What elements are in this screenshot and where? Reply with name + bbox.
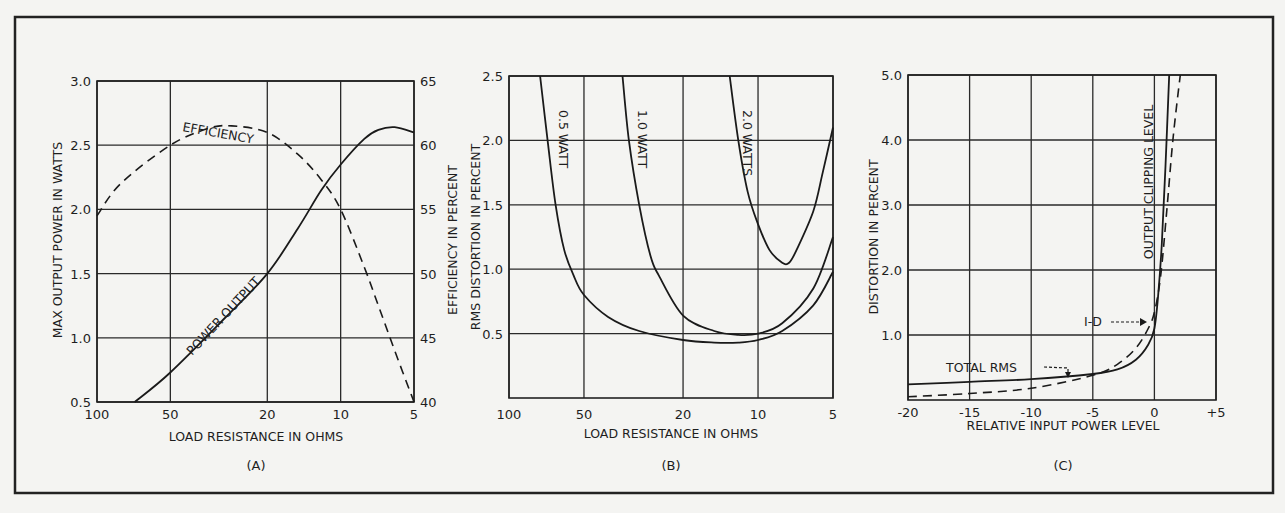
power-output-curve — [135, 127, 414, 402]
y-tick: 2.0 — [70, 202, 91, 217]
panel-b-x-ticks: 1005020105 — [497, 407, 838, 422]
id-label: I-D — [1084, 314, 1102, 329]
two-watt-label: 2.0 WATTS — [740, 110, 755, 176]
panel-a-ylabel-right: EFFICIENCY IN PERCENT — [445, 165, 460, 315]
y-tick: 1.5 — [482, 198, 503, 213]
y-tick-right: 55 — [420, 202, 437, 217]
y-tick: 3.0 — [70, 74, 91, 89]
panel-a-x-ticks: 1005020105 — [85, 407, 419, 422]
total-rms-label: TOTAL RMS — [945, 360, 1017, 375]
panel-c-ylabel: DISTORTION IN PERCENT — [866, 159, 881, 314]
panel-b-ylabel: RMS DISTORTION IN PERCENT — [468, 143, 483, 330]
x-tick: 50 — [162, 407, 179, 422]
id-arrowhead — [1140, 318, 1147, 326]
panel-b-y-ticks: 0.51.01.52.02.5 — [482, 69, 503, 342]
panel-a-ylabel: MAX OUTPUT POWER IN WATTS — [50, 142, 65, 338]
panel-c-grid — [908, 75, 1216, 400]
y-tick: 0.5 — [482, 327, 503, 342]
y-tick: 1.0 — [70, 331, 91, 346]
x-tick: 5 — [410, 407, 418, 422]
total-rms-curve — [908, 75, 1169, 384]
total-rms-arrow — [1044, 367, 1068, 375]
y-tick-right: 65 — [420, 74, 437, 89]
panel-a-label: (A) — [246, 458, 265, 473]
panel-a-y-ticks: 0.51.01.52.02.53.0 — [70, 74, 91, 410]
panel-b-label: (B) — [661, 458, 680, 473]
y-tick: 1.0 — [881, 328, 902, 343]
output-clipping-level-label: OUTPUT CLIPPING LEVEL — [1141, 105, 1156, 259]
panel-a-plot-frame — [97, 81, 414, 402]
x-tick: 100 — [497, 407, 522, 422]
y-tick: 3.0 — [881, 198, 902, 213]
y-tick-right: 45 — [420, 331, 437, 346]
one-watt-label: 1.0 WATT — [635, 110, 650, 169]
panel-a-grid — [97, 81, 414, 402]
y-tick: 4.0 — [881, 133, 902, 148]
y-tick-right: 50 — [420, 267, 437, 282]
half-watt-label: 0.5 WATT — [556, 110, 571, 169]
y-tick-right: 60 — [420, 138, 437, 153]
panel-a-xlabel: LOAD RESISTANCE IN OHMS — [169, 429, 344, 444]
y-tick: 2.0 — [482, 133, 503, 148]
y-tick: 2.0 — [881, 263, 902, 278]
x-tick: 50 — [576, 407, 593, 422]
panel-c-xlabel: RELATIVE INPUT POWER LEVEL — [966, 418, 1159, 433]
panel-b-xlabel: LOAD RESISTANCE IN OHMS — [584, 426, 759, 441]
panel-a-y-ticks-right: 404550556065 — [420, 74, 437, 410]
panel-c-label: (C) — [1053, 458, 1072, 473]
y-tick: 2.5 — [482, 69, 503, 84]
panel-c-plot-frame — [908, 75, 1216, 400]
panel-b: 0.51.01.52.02.5 1005020105 RMS DISTORTIO… — [468, 69, 837, 473]
x-tick: 5 — [829, 407, 837, 422]
y-tick: 1.5 — [70, 267, 91, 282]
x-tick: 10 — [332, 407, 349, 422]
x-tick: -20 — [897, 405, 918, 420]
panel-c: 1.02.03.04.05.0 -20-15-10-50+5 DISTORTIO… — [866, 68, 1226, 473]
efficiency-curve — [97, 126, 414, 402]
x-tick: 100 — [85, 407, 110, 422]
panel-c-y-ticks: 1.02.03.04.05.0 — [881, 68, 902, 343]
panel-a: 0.51.01.52.02.53.0 404550556065 10050201… — [50, 74, 460, 473]
figure: 0.51.01.52.02.53.0 404550556065 10050201… — [0, 0, 1285, 513]
power-output-curve-label: POWER OUTPUT — [183, 274, 263, 359]
y-tick: 5.0 — [881, 68, 902, 83]
x-tick: 10 — [750, 407, 767, 422]
id-curve — [908, 75, 1180, 397]
x-tick: +5 — [1206, 405, 1225, 420]
one-watt-curve — [623, 76, 834, 335]
y-tick: 2.5 — [70, 138, 91, 153]
efficiency-curve-label: EFFICIENCY — [181, 119, 255, 146]
y-tick: 1.0 — [482, 262, 503, 277]
x-tick: 20 — [675, 407, 692, 422]
x-tick: 20 — [259, 407, 276, 422]
y-tick-right: 40 — [420, 395, 437, 410]
